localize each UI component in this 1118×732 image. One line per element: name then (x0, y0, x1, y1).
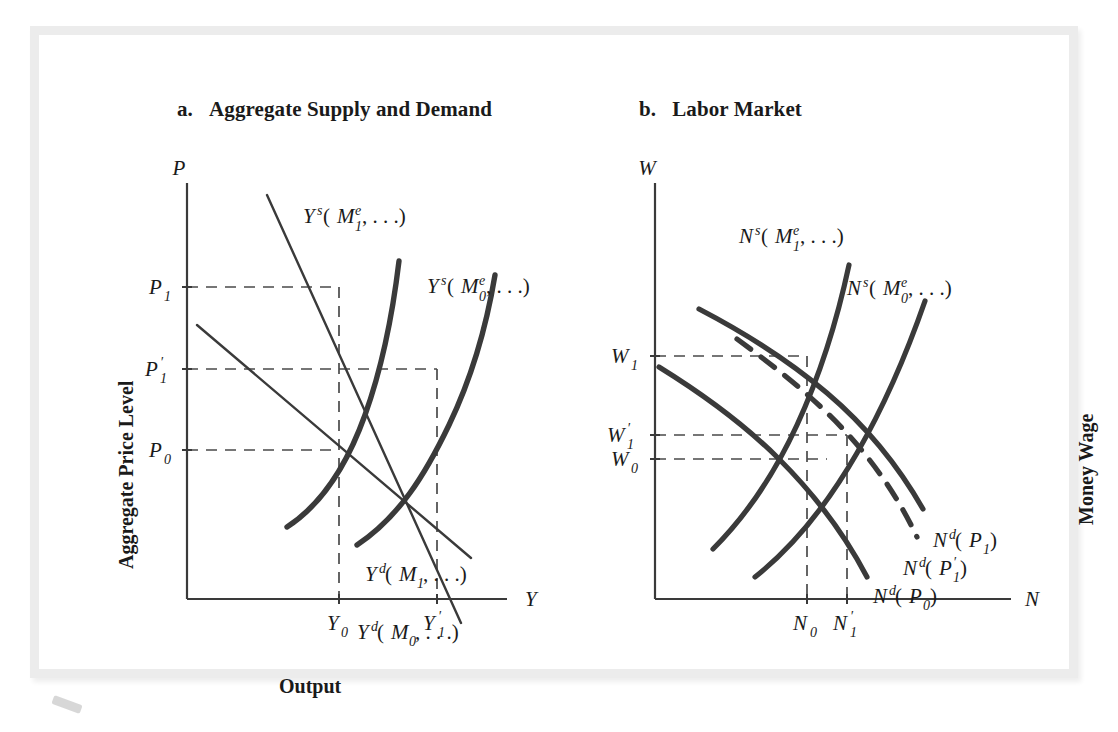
svg-text:W: W (611, 447, 631, 471)
svg-text:e: e (355, 203, 361, 218)
curve-aggregate-supply-0 (357, 275, 495, 545)
svg-text:, . . .): , . . .) (800, 224, 844, 248)
panel-labor-market: b. Labor Market W N (549, 75, 1049, 675)
svg-text:M: M (774, 224, 794, 248)
panel-a-x-axis-caption: Output (279, 675, 341, 698)
curve-aggregate-demand-1 (197, 325, 471, 558)
svg-text:′: ′ (627, 421, 631, 436)
panel-a-ylabel-p1: P 1 (148, 275, 171, 304)
svg-text:P: P (938, 556, 952, 580)
label-curve-labor-demand-p1prime: N d ( P ′ 1 ) (902, 555, 967, 585)
panel-a-ylabel-p0: P 0 (148, 438, 171, 467)
svg-text:M: M (882, 276, 902, 300)
svg-text:1: 1 (850, 625, 857, 640)
label-curve-labor-supply-0: N s ( M e 0 , . . .) (846, 275, 952, 306)
panel-a-y-axis-symbol: P (172, 156, 186, 180)
svg-text:Y: Y (365, 562, 379, 586)
label-curve-aggregate-demand-1: Y d ( M 1 , . . .) (365, 561, 467, 591)
corner-mark (51, 695, 82, 714)
panel-b-ylabel-w1: W 1 (611, 344, 638, 373)
svg-text:1: 1 (631, 358, 638, 373)
svg-text:): ) (930, 584, 937, 608)
curve-labor-supply-1 (713, 265, 849, 549)
svg-text:, . . .): , . . .) (908, 276, 952, 300)
svg-text:N: N (738, 224, 754, 248)
svg-text:N: N (902, 556, 918, 580)
curve-aggregate-supply-1 (287, 261, 399, 527)
svg-text:(: ( (895, 584, 902, 608)
svg-text:(: ( (955, 528, 962, 552)
svg-text:P: P (144, 357, 158, 381)
label-curve-aggregate-supply-1: Y s ( M e 1 , . . .) (303, 203, 406, 234)
svg-text:e: e (901, 275, 907, 290)
svg-text:′: ′ (160, 355, 164, 370)
svg-text:′: ′ (850, 609, 854, 624)
svg-text:′: ′ (953, 555, 957, 570)
svg-text:Y: Y (327, 611, 341, 635)
svg-text:W: W (607, 423, 627, 447)
svg-text:(: ( (323, 204, 330, 228)
svg-text:P: P (908, 584, 922, 608)
label-curve-labor-supply-1: N s ( M e 1 , . . .) (738, 223, 844, 254)
panel-b-x-axis-symbol: N (1024, 587, 1040, 611)
svg-text:, . . .): , . . .) (362, 204, 406, 228)
svg-text:P: P (968, 528, 982, 552)
panel-a-x-axis-symbol: Y (525, 587, 539, 611)
panel-a-xlabel-y0: Y 0 (327, 611, 348, 640)
svg-text:(: ( (925, 556, 932, 580)
svg-text:e: e (479, 273, 485, 288)
svg-text:M: M (336, 204, 356, 228)
svg-text:1: 1 (793, 239, 800, 254)
svg-text:(: ( (377, 620, 384, 644)
svg-text:N: N (792, 611, 808, 635)
svg-text:0: 0 (631, 461, 638, 476)
svg-text:, . . .): , . . .) (415, 620, 459, 644)
svg-text:M: M (390, 620, 410, 644)
curve-labor-demand-p1 (699, 309, 923, 509)
panel-b-xlabel-n1prime: N ′ 1 (832, 609, 857, 640)
svg-text:(: ( (447, 274, 454, 298)
svg-text:P: P (148, 275, 162, 299)
svg-text:(: ( (761, 224, 768, 248)
svg-text:0: 0 (810, 625, 817, 640)
panel-b-y-axis-caption: Money Wage (1075, 414, 1098, 525)
svg-text:Y: Y (357, 620, 371, 644)
label-curve-labor-demand-p1: N d ( P 1 ) (932, 527, 997, 557)
svg-text:Y: Y (427, 274, 441, 298)
svg-text:M: M (398, 562, 418, 586)
svg-text:N: N (872, 584, 888, 608)
svg-text:N: N (846, 276, 862, 300)
figure-frame: a. Aggregate Supply and Demand P Y (30, 26, 1078, 678)
svg-text:(: ( (869, 276, 876, 300)
svg-text:, . . .): , . . .) (423, 562, 467, 586)
svg-text:0: 0 (901, 291, 908, 306)
panel-a-y-axis-caption: Aggregate Price Level (115, 381, 138, 569)
curve-labor-demand-p1prime (737, 339, 917, 537)
svg-text:): ) (990, 528, 997, 552)
svg-text:N: N (932, 528, 948, 552)
svg-text:(: ( (385, 562, 392, 586)
svg-text:e: e (793, 223, 799, 238)
panel-a-ylabel-p1prime: P ′ 1 (144, 355, 167, 386)
panel-b-y-axis-symbol: W (638, 156, 658, 180)
svg-text:Y: Y (303, 204, 317, 228)
label-curve-aggregate-supply-0: Y s ( M e 0 , . . .) (427, 273, 530, 304)
panel-b-plot: W N (549, 75, 1049, 675)
panel-a-plot: P Y (69, 75, 559, 675)
svg-text:1: 1 (160, 371, 167, 386)
label-curve-aggregate-demand-0: Y d ( M 0 , . . .) (357, 619, 459, 649)
svg-text:W: W (611, 344, 631, 368)
svg-text:N: N (832, 611, 848, 635)
svg-text:0: 0 (479, 289, 486, 304)
svg-text:0: 0 (923, 598, 930, 613)
svg-text:, . . .): , . . .) (486, 274, 530, 298)
svg-text:0: 0 (341, 625, 348, 640)
svg-text:1: 1 (953, 570, 960, 585)
svg-text:1: 1 (355, 219, 362, 234)
panel-aggregate-supply-demand: a. Aggregate Supply and Demand P Y (69, 75, 559, 675)
svg-text:0: 0 (164, 452, 171, 467)
svg-text:1: 1 (164, 289, 171, 304)
svg-text:P: P (148, 438, 162, 462)
svg-text:): ) (960, 556, 967, 580)
panel-b-xlabel-n0: N 0 (792, 611, 817, 640)
